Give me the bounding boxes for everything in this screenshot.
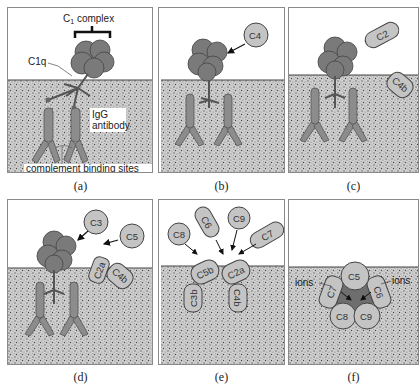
c1-complex-icon: [71, 40, 114, 78]
caption-d: (d): [15, 370, 146, 385]
panel-a-illustration: C1 complex C1q IgG antibody complement b…: [8, 8, 153, 173]
arrow-icon: [232, 230, 237, 250]
c4b-label: C4b: [232, 289, 243, 306]
panel-c: C2 C4b: [288, 7, 419, 173]
c4-label: C4: [249, 30, 261, 41]
arrow-icon: [104, 240, 118, 244]
arrow-icon: [216, 240, 223, 254]
arrow-icon: [239, 244, 256, 254]
c1-complex-icon: [188, 39, 227, 81]
c9-label: C9: [360, 311, 372, 322]
c1q-label: C1q: [28, 56, 46, 67]
panel-d: C3 C5 C2a C4b: [7, 199, 153, 365]
panel-e: C8 C6 C9 C7 C5b C2a C3b C4b: [158, 199, 285, 365]
c3b-molecule-icon: C3b: [184, 284, 202, 312]
arrow-icon: [185, 244, 197, 254]
caption-f: (f): [288, 370, 419, 385]
panel-f: C7 C6 C5 C8 C9 ions ions: [288, 199, 419, 365]
c1-complex-label: C1 complex: [63, 13, 114, 25]
ions-right-label: ions: [392, 275, 410, 286]
panel-d-illustration: C3 C5 C2a C4b: [8, 200, 153, 365]
caption-a: (a): [15, 179, 146, 194]
c8-label: C8: [336, 311, 348, 322]
panel-b: C4: [158, 7, 285, 173]
c1-bracket-icon: [75, 26, 110, 38]
panel-a: C1 complex C1q IgG antibody complement b…: [7, 7, 153, 173]
c2-molecule-icon: C2: [362, 19, 401, 50]
panel-c-illustration: C2 C4b: [289, 8, 419, 173]
arrow-icon: [78, 231, 88, 240]
arrow-icon: [228, 44, 245, 53]
caption-c: (c): [288, 179, 419, 194]
caption-e: (e): [156, 370, 287, 385]
ions-left-label: ions: [295, 277, 313, 288]
c1-complex-icon: [37, 231, 76, 273]
c1-complex-icon: [318, 37, 357, 79]
panel-f-illustration: C7 C6 C5 C8 C9 ions ions: [289, 200, 419, 365]
c9-label: C9: [233, 213, 245, 224]
c4b-molecule-icon: C4b: [229, 284, 247, 312]
binding-sites-label: complement binding sites: [26, 163, 139, 173]
igg-label: IgG: [92, 109, 108, 120]
c5-label: C5: [348, 271, 360, 282]
c3b-label: C3b: [188, 290, 199, 307]
panel-e-illustration: C8 C6 C9 C7 C5b C2a C3b C4b: [159, 200, 285, 365]
c3-label: C3: [90, 217, 102, 228]
panel-b-illustration: C4: [159, 8, 285, 173]
c5-label: C5: [126, 231, 138, 242]
antibody-label: antibody: [92, 120, 130, 131]
caption-b: (b): [156, 179, 287, 194]
c8-label: C8: [173, 229, 185, 240]
c6-molecule-icon: C6: [192, 204, 222, 240]
